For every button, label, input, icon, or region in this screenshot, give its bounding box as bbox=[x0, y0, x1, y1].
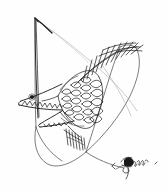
upper-jaw bbox=[19, 84, 62, 110]
sketch-canvas bbox=[0, 0, 168, 191]
dorsal-fin bbox=[74, 42, 143, 86]
ventral-fin bbox=[64, 126, 85, 150]
apex-spike bbox=[35, 18, 52, 118]
signature bbox=[112, 157, 157, 179]
ink-drawing bbox=[0, 0, 168, 191]
eye bbox=[29, 94, 35, 100]
lower-jaw bbox=[39, 110, 75, 127]
